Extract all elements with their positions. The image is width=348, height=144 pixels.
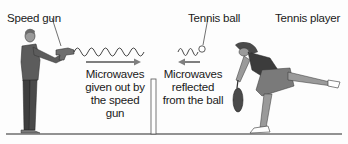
label-tennis-player: Tennis player [275,12,340,24]
caption-emitted-microwaves: Microwaves given out by the speed gun [80,68,150,120]
man-figure [21,29,62,133]
caption-emitted-line-2: given out by [80,81,150,94]
tennis-player-figure [233,42,340,133]
diagram-canvas: Speed gun Tennis ball Tennis player Micr… [0,0,348,144]
emitted-microwave-wave [74,48,144,56]
label-speed-gun: Speed gun [7,12,61,24]
caption-emitted-line-1: Microwaves [80,68,150,81]
net-post [151,79,156,134]
caption-reflected-line-2: reflected [160,81,226,94]
tennis-ball [199,46,205,52]
caption-reflected-line-1: Microwaves [160,68,226,81]
caption-emitted-line-3: the speed gun [80,94,150,120]
caption-reflected-line-3: from the ball [160,94,226,107]
reflected-arrow-left [178,59,200,66]
caption-reflected-microwaves: Microwaves reflected from the ball [160,68,226,107]
label-tennis-ball: Tennis ball [188,12,240,24]
emitted-arrow-right [86,59,141,66]
reflected-microwave-wave [178,49,198,56]
